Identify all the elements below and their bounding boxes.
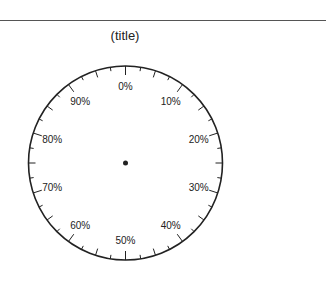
tick-mark <box>208 119 212 121</box>
scale-label: 90% <box>70 96 90 107</box>
scale-label: 0% <box>118 81 133 92</box>
tick-mark <box>217 148 221 149</box>
tick-mark <box>57 94 60 97</box>
tick-mark <box>110 255 111 259</box>
pie-dial: 0%10%20%30%40%50%60%70%80%90% <box>0 0 326 287</box>
scale-label: 10% <box>161 96 181 107</box>
tick-mark <box>96 249 98 256</box>
tick-mark <box>39 119 43 121</box>
tick-mark <box>191 94 194 97</box>
tick-mark <box>81 77 83 81</box>
scale-label: 40% <box>161 220 181 231</box>
tick-mark <box>30 148 34 149</box>
tick-mark <box>33 190 42 193</box>
tick-mark <box>217 178 221 179</box>
tick-mark <box>168 77 170 81</box>
scale-label: 80% <box>42 134 62 145</box>
tick-mark <box>209 190 218 193</box>
tick-mark <box>47 106 53 110</box>
tick-mark <box>110 67 111 71</box>
scale-label: 20% <box>189 134 209 145</box>
tick-mark <box>153 249 155 256</box>
tick-mark <box>68 85 73 92</box>
tick-mark <box>47 216 53 220</box>
tick-mark <box>209 133 218 136</box>
tick-mark <box>168 246 170 250</box>
tick-mark <box>198 216 204 220</box>
tick-mark <box>57 229 60 232</box>
tick-mark <box>39 205 43 207</box>
tick-mark <box>177 234 182 241</box>
tick-mark <box>33 133 42 136</box>
tick-mark <box>191 229 194 232</box>
scale-label: 50% <box>115 235 135 246</box>
tick-mark <box>198 106 204 110</box>
tick-mark <box>30 178 34 179</box>
scale-label: 60% <box>70 220 90 231</box>
tick-mark <box>68 234 73 241</box>
center-dot <box>123 161 128 166</box>
tick-mark <box>208 205 212 207</box>
tick-mark <box>153 71 155 78</box>
tick-mark <box>81 246 83 250</box>
tick-mark <box>177 85 182 92</box>
tick-mark <box>96 71 98 78</box>
tick-mark <box>140 255 141 259</box>
tick-mark <box>140 67 141 71</box>
scale-label: 70% <box>42 182 62 193</box>
scale-label: 30% <box>189 182 209 193</box>
